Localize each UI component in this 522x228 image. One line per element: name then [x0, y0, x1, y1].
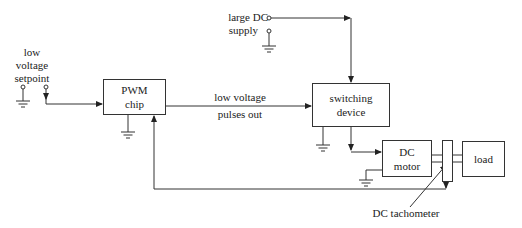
supply-label: large DC supply	[216, 11, 268, 37]
supply-label-line2: supply	[216, 24, 268, 37]
setpoint-label: low voltage setpoint	[4, 46, 60, 85]
pulses-label-line2: pulses out	[195, 108, 285, 121]
supply-terminals	[262, 16, 351, 82]
tachometer-block	[442, 140, 453, 182]
dc-motor-block: DC motor	[382, 140, 432, 177]
supply-label-line1: large DC	[216, 11, 268, 24]
tachometer-label: DC tachometer	[356, 207, 456, 220]
setpoint-label-line3: setpoint	[4, 72, 60, 85]
load-block-label: load	[474, 152, 493, 166]
pwm-motor-control-diagram: low voltage setpoint large DC supply low…	[0, 0, 522, 228]
switching-device-block: switching device	[312, 83, 390, 127]
motor-block-line1: DC	[399, 145, 414, 159]
motor-ground-icon	[359, 170, 382, 186]
switching-block-line1: switching	[330, 91, 373, 105]
pwm-chip-block: PWM chip	[103, 79, 166, 115]
setpoint-label-line2: voltage	[4, 59, 60, 72]
switching-ground-icon	[316, 127, 330, 151]
load-block: load	[462, 141, 505, 177]
pwm-ground-icon	[121, 115, 135, 138]
setpoint-label-line1: low	[4, 46, 60, 59]
pulses-label: low voltage pulses out	[195, 92, 285, 121]
switching-block-line2: device	[337, 105, 366, 119]
motor-block-line2: motor	[394, 159, 420, 173]
setpoint-terminals	[16, 85, 102, 107]
pulses-label-line1: low voltage	[195, 91, 285, 104]
pwm-block-line1: PWM	[121, 83, 147, 97]
pwm-block-line2: chip	[125, 97, 144, 111]
